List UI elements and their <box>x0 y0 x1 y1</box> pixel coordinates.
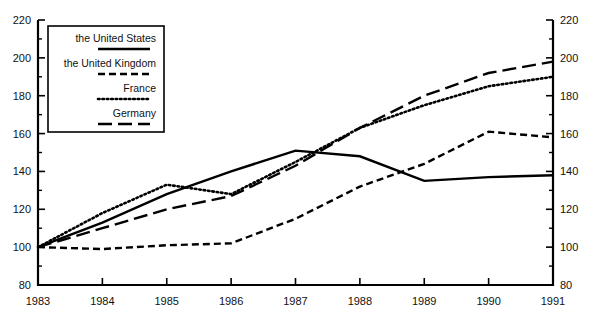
series-line-the-united-kingdom <box>38 132 553 249</box>
y-axis-tick-label-right: 120 <box>560 203 578 215</box>
y-axis-tick-label-right: 160 <box>560 128 578 140</box>
x-axis-tick-label: 1984 <box>90 295 114 307</box>
chart-canvas: 8080100100120120140140160160180180200200… <box>0 0 591 320</box>
y-axis-tick-label-right: 80 <box>560 279 572 291</box>
y-axis-tick-label-right: 100 <box>560 241 578 253</box>
y-axis-tick-label-left: 180 <box>13 90 31 102</box>
x-axis-tick-label: 1987 <box>283 295 307 307</box>
legend-entry-label: the United Kingdom <box>64 57 156 69</box>
x-axis-tick-label: 1986 <box>219 295 243 307</box>
y-axis-tick-label-left: 160 <box>13 128 31 140</box>
legend-entry-label: the United States <box>75 32 156 44</box>
x-axis-tick-label: 1990 <box>476 295 500 307</box>
x-axis-tick-label: 1983 <box>26 295 50 307</box>
y-axis-tick-label-right: 200 <box>560 52 578 64</box>
x-axis-tick-label: 1985 <box>155 295 179 307</box>
y-axis-tick-label-left: 80 <box>19 279 31 291</box>
legend-entry-label: Germany <box>113 107 157 119</box>
y-axis-tick-label-right: 180 <box>560 90 578 102</box>
y-axis-tick-label-left: 100 <box>13 241 31 253</box>
x-axis-tick-label: 1991 <box>541 295 565 307</box>
line-chart: 8080100100120120140140160160180180200200… <box>0 0 591 320</box>
x-axis-tick-label: 1989 <box>412 295 436 307</box>
legend-entry-label: France <box>123 82 156 94</box>
y-axis-tick-label-left: 140 <box>13 165 31 177</box>
y-axis-tick-label-right: 140 <box>560 165 578 177</box>
x-axis-tick-label: 1988 <box>348 295 372 307</box>
y-axis-tick-label-left: 200 <box>13 52 31 64</box>
y-axis-tick-label-right: 220 <box>560 14 578 26</box>
y-axis-tick-label-left: 220 <box>13 14 31 26</box>
y-axis-tick-label-left: 120 <box>13 203 31 215</box>
